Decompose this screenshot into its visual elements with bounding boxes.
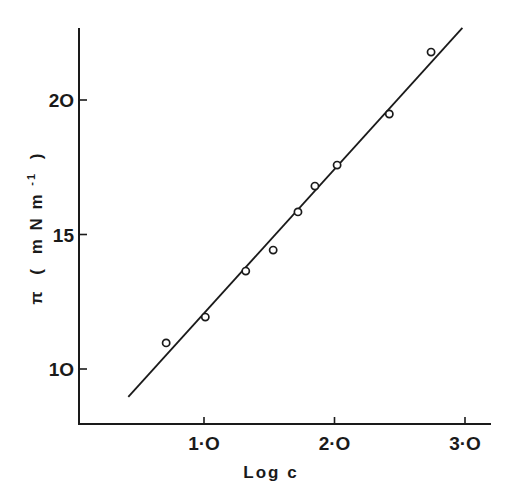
axes [78, 28, 491, 425]
y-tick-label: 2O [49, 90, 74, 111]
y-axis-symbol: π [27, 290, 46, 305]
y-ticks: 1O152O [49, 90, 87, 380]
chart-canvas: 1·O2·O3·O 1O152O Log c π ( m N m -1 ) [0, 0, 515, 501]
data-point [334, 161, 341, 168]
data-point [427, 49, 434, 56]
data-point [163, 339, 170, 346]
data-point [270, 247, 277, 254]
x-tick-label: 3·O [449, 433, 481, 454]
x-axis-label: Log c [243, 463, 298, 482]
data-point [294, 208, 301, 215]
svg-text:π ( m N m -1: π ( m N m -1 ) [20, 151, 46, 304]
y-tick-label: 15 [53, 225, 75, 246]
x-tick-label: 1·O [188, 433, 220, 454]
data-point [202, 313, 209, 320]
y-tick-label: 1O [49, 359, 74, 380]
data-point [311, 182, 318, 189]
data-point [386, 110, 393, 117]
y-axis-units: m N m [27, 192, 46, 254]
data-points [163, 49, 435, 347]
x-tick-label: 2·O [319, 433, 351, 454]
x-ticks: 1·O2·O3·O [188, 417, 481, 454]
y-axis-label: π ( m N m -1 ) [20, 151, 46, 304]
data-point [242, 267, 249, 274]
